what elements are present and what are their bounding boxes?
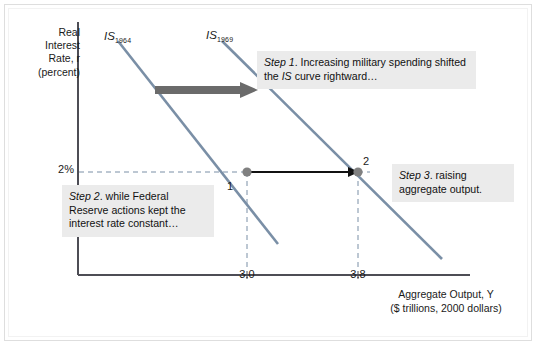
callout-step-2-label: Step 2 bbox=[69, 190, 100, 202]
callout-step-1: Step 1. Increasing military spending shi… bbox=[257, 51, 476, 89]
callout-step-3-label: Step 3 bbox=[399, 169, 430, 181]
is-shift-arrow bbox=[155, 82, 258, 98]
point-label-2: 2 bbox=[363, 155, 369, 167]
is-1969-label: IS1969 bbox=[206, 29, 233, 43]
point-label-1: 1 bbox=[227, 180, 233, 192]
x-axis-title: Aggregate Output, Y ($ trillions, 2000 d… bbox=[366, 288, 526, 315]
x-tick-label-3-0: 3.0 bbox=[232, 268, 262, 280]
callout-step-1-text-b: curve rightward… bbox=[292, 70, 378, 82]
equilibrium-point-1 bbox=[242, 167, 251, 176]
is-1964-label: IS1964 bbox=[104, 30, 131, 44]
output-increase-arrow bbox=[251, 167, 359, 177]
y-axis-title: Real Interest Rate, r (percent) bbox=[18, 26, 80, 79]
equilibrium-point-2 bbox=[353, 167, 362, 176]
is-1964-label-name: IS bbox=[104, 30, 115, 42]
is-curve-shift-figure: Real Interest Rate, r (percent) Aggregat… bbox=[0, 0, 536, 345]
x-tick-label-3-8: 3.8 bbox=[343, 268, 373, 280]
callout-step-1-italic-term: IS bbox=[282, 70, 292, 82]
callout-step-1-label: Step 1 bbox=[264, 56, 295, 68]
callout-step-2: Step 2. while Federal Reserve actions ke… bbox=[62, 185, 214, 237]
callout-step-3: Step 3. raising aggregate output. bbox=[392, 164, 514, 202]
is-1969-label-subscript: 1969 bbox=[217, 36, 233, 43]
is-1969-label-name: IS bbox=[206, 29, 217, 41]
is-1964-label-subscript: 1964 bbox=[115, 37, 131, 44]
y-tick-label-2-percent: 2% bbox=[48, 163, 74, 175]
